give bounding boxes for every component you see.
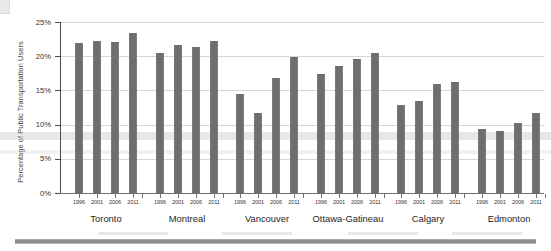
y-axis-tick bbox=[55, 159, 61, 160]
bar bbox=[156, 53, 164, 193]
x-axis-group-tick bbox=[142, 194, 143, 198]
x-axis-tick-label: 2011 bbox=[283, 199, 305, 205]
x-axis-tick-label: 2011 bbox=[444, 199, 466, 205]
x-axis-group-tick bbox=[545, 194, 546, 198]
x-axis-tick bbox=[294, 194, 295, 198]
bar bbox=[415, 101, 423, 193]
y-axis-title: Percentage of Public Transportation User… bbox=[14, 17, 28, 207]
bar bbox=[272, 78, 280, 193]
x-axis-group-tick bbox=[303, 194, 304, 198]
x-axis-tick bbox=[339, 194, 340, 198]
x-axis-tick bbox=[214, 194, 215, 198]
y-axis-tick bbox=[55, 56, 61, 57]
x-axis-group-tick bbox=[384, 194, 385, 198]
scan-smudge bbox=[98, 232, 168, 235]
x-axis-tick bbox=[419, 194, 420, 198]
y-axis-tick bbox=[55, 90, 61, 91]
gridline bbox=[61, 22, 544, 23]
x-axis-tick bbox=[401, 194, 402, 198]
bar bbox=[192, 47, 200, 193]
bar bbox=[317, 74, 325, 193]
x-axis-tick-label: 2011 bbox=[525, 199, 547, 205]
x-axis-tick bbox=[455, 194, 456, 198]
plot-area bbox=[61, 22, 544, 193]
y-axis-tick-label: 10% bbox=[21, 120, 51, 129]
bar bbox=[496, 131, 504, 193]
x-axis-tick bbox=[196, 194, 197, 198]
bar bbox=[111, 42, 119, 193]
bar bbox=[129, 33, 137, 193]
x-axis-tick bbox=[258, 194, 259, 198]
y-axis-tick bbox=[55, 22, 61, 23]
bar bbox=[371, 53, 379, 193]
bar bbox=[514, 123, 522, 193]
x-axis-tick-label: 2011 bbox=[203, 199, 225, 205]
scan-smudge bbox=[222, 232, 292, 235]
x-axis-tick bbox=[437, 194, 438, 198]
x-axis-tick-label: 2011 bbox=[364, 199, 386, 205]
x-axis-tick bbox=[160, 194, 161, 198]
x-axis-tick bbox=[536, 194, 537, 198]
bar bbox=[75, 43, 83, 193]
x-axis-tick bbox=[276, 194, 277, 198]
x-axis-tick bbox=[178, 194, 179, 198]
x-axis-group-tick bbox=[223, 194, 224, 198]
bar-chart-figure: Percentage of Public Transportation User… bbox=[0, 0, 551, 251]
bar bbox=[290, 57, 298, 193]
x-axis-tick bbox=[115, 194, 116, 198]
bar bbox=[210, 41, 218, 193]
scan-artifact bbox=[0, 0, 10, 14]
x-axis-tick bbox=[518, 194, 519, 198]
bar bbox=[451, 82, 459, 193]
y-axis-tick-label: 15% bbox=[21, 86, 51, 95]
scan-smudge bbox=[452, 232, 522, 235]
x-axis-tick bbox=[357, 194, 358, 198]
bar bbox=[433, 84, 441, 193]
x-axis-tick bbox=[133, 194, 134, 198]
scan-smudge bbox=[348, 232, 418, 235]
y-axis-tick-label: 20% bbox=[21, 52, 51, 61]
bottom-rule bbox=[15, 239, 536, 244]
bar bbox=[174, 45, 182, 193]
x-axis-tick-label: 2011 bbox=[122, 199, 144, 205]
bar bbox=[93, 41, 101, 193]
bar bbox=[532, 113, 540, 193]
x-axis-tick bbox=[482, 194, 483, 198]
y-axis-line bbox=[60, 22, 61, 194]
x-axis-tick bbox=[500, 194, 501, 198]
x-axis-tick bbox=[97, 194, 98, 198]
group-label: Edmonton bbox=[454, 213, 551, 224]
x-axis-tick bbox=[79, 194, 80, 198]
bar bbox=[478, 129, 486, 193]
bar bbox=[254, 113, 262, 193]
y-axis-tick-label: 0% bbox=[21, 189, 51, 198]
bar bbox=[397, 105, 405, 193]
x-axis-tick bbox=[375, 194, 376, 198]
bar bbox=[335, 66, 343, 193]
x-axis-tick bbox=[240, 194, 241, 198]
y-axis-tick bbox=[55, 125, 61, 126]
bar bbox=[236, 94, 244, 193]
y-axis-tick-label: 5% bbox=[21, 154, 51, 163]
y-axis-tick-label: 25% bbox=[21, 18, 51, 27]
x-axis-tick bbox=[321, 194, 322, 198]
x-axis-group-tick bbox=[464, 194, 465, 198]
bar bbox=[353, 59, 361, 193]
